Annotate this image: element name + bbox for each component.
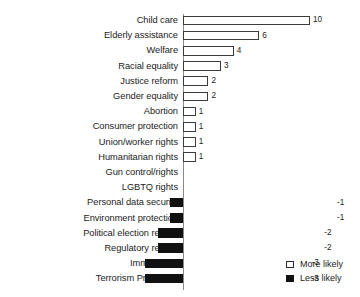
bar-more-likely: [183, 152, 196, 162]
bar-value-label: 1: [199, 122, 204, 132]
chart-row: Personal data security-1: [0, 195, 360, 210]
bar-more-likely: [183, 31, 259, 41]
bar-value-label: -2: [324, 243, 331, 253]
filled-square-icon: [286, 275, 294, 282]
category-label: Humanitarian rights: [0, 152, 178, 163]
legend-item-less-likely: Less likely: [286, 271, 343, 285]
bar-value-label: 2: [211, 91, 216, 101]
category-label: LGBTQ rights: [0, 182, 178, 193]
chart-row: LGBTQ rights: [0, 180, 360, 195]
chart-row: Child care10: [0, 13, 360, 28]
bar-value-label: 2: [211, 76, 216, 86]
bar-less-likely: [170, 198, 183, 208]
bar-value-label: 6: [262, 31, 267, 41]
bar-value-label: 1: [199, 107, 204, 117]
bar-more-likely: [183, 92, 208, 102]
bar-value-label: 4: [237, 46, 242, 56]
category-label: Gender equality: [0, 91, 178, 102]
bar-value-label: 1: [199, 152, 204, 162]
bar-track: 2: [183, 89, 360, 104]
category-label: Elderly assistance: [0, 30, 178, 41]
chart-row: Justice reform2: [0, 74, 360, 89]
bar-more-likely: [183, 107, 196, 117]
chart-row: Humanitarian rights1: [0, 150, 360, 165]
chart-row: Elderly assistance6: [0, 28, 360, 43]
chart-row: Regulatory reform-2: [0, 241, 360, 256]
bar-track: 3: [183, 59, 360, 74]
bar-more-likely: [183, 76, 208, 86]
bar-track: 10: [183, 13, 360, 28]
chart-row: Gender equality2: [0, 89, 360, 104]
category-label: Welfare: [0, 45, 178, 56]
chart-row: Consumer protection1: [0, 119, 360, 134]
bar-value-label: -2: [324, 228, 331, 238]
bar-less-likely: [158, 228, 183, 238]
chart-row: Racial equality3: [0, 59, 360, 74]
chart-row: Abortion1: [0, 104, 360, 119]
category-label: Environment protection: [0, 213, 178, 224]
bar-track: 1: [183, 135, 360, 150]
bar-more-likely: [183, 137, 196, 147]
category-label: Abortion: [0, 106, 178, 117]
category-label: Consumer protection: [0, 121, 178, 132]
category-label: Gun control/rights: [0, 167, 178, 178]
bar-track: 1: [183, 150, 360, 165]
chart-rows: Child care10Elderly assistance6Welfare4R…: [0, 13, 360, 286]
bar-track: [183, 165, 360, 180]
bar-track: 1: [183, 119, 360, 134]
bar-less-likely: [145, 259, 183, 269]
chart-row: Union/worker rights1: [0, 135, 360, 150]
bar-less-likely: [158, 243, 183, 253]
category-label: Racial equality: [0, 61, 178, 72]
bar-more-likely: [183, 122, 196, 132]
chart-row: Gun control/rights: [0, 165, 360, 180]
bar-track: 2: [183, 74, 360, 89]
bar-track: 6: [183, 28, 360, 43]
bar-track: -2: [183, 226, 360, 241]
bar-value-label: 10: [313, 15, 322, 25]
bar-track: 4: [183, 43, 360, 58]
bar-value-label: -1: [337, 213, 344, 223]
chart-legend: More likely Less likely: [286, 257, 343, 285]
bar-track: [183, 180, 360, 195]
category-label: Union/worker rights: [0, 137, 178, 148]
category-label: Child care: [0, 15, 178, 26]
bar-value-label: 3: [224, 61, 229, 71]
bar-track: -1: [183, 195, 360, 210]
bar-value-label: -1: [337, 198, 344, 208]
bar-track: -2: [183, 241, 360, 256]
category-label: Personal data security: [0, 197, 178, 208]
horizontal-bar-chart: Child care10Elderly assistance6Welfare4R…: [0, 0, 360, 297]
bar-track: -1: [183, 210, 360, 225]
category-label: Justice reform: [0, 76, 178, 87]
chart-row: Welfare4: [0, 43, 360, 58]
bar-less-likely: [170, 213, 183, 223]
category-label: Political election reform: [0, 228, 178, 239]
bar-more-likely: [183, 61, 221, 71]
category-label: Regulatory reform: [0, 243, 178, 254]
bar-value-label: 1: [199, 137, 204, 147]
legend-label-more-likely: More likely: [300, 258, 343, 271]
bar-track: 1: [183, 104, 360, 119]
legend-label-less-likely: Less likely: [300, 272, 342, 285]
bar-less-likely: [145, 274, 183, 284]
legend-item-more-likely: More likely: [286, 257, 343, 271]
bar-more-likely: [183, 46, 234, 56]
bar-more-likely: [183, 16, 310, 26]
outlined-square-icon: [286, 261, 294, 268]
chart-row: Political election reform-2: [0, 226, 360, 241]
chart-row: Environment protection-1: [0, 210, 360, 225]
